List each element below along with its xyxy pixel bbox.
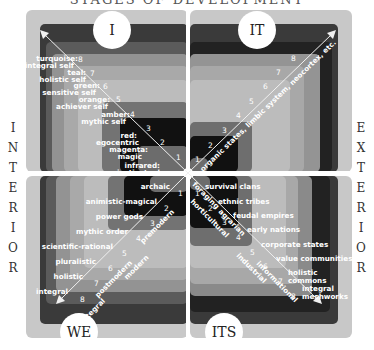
side-letter: E: [6, 178, 20, 198]
diagram-title: STAGES OF DEVELOPMENT: [0, 0, 374, 7]
quadrant-its: [190, 176, 352, 338]
side-letter: T: [354, 158, 368, 178]
side-letter: X: [354, 138, 368, 158]
exterior-label: EXTERIOR: [354, 118, 368, 278]
side-letter: I: [6, 118, 20, 138]
side-letter: N: [6, 138, 20, 158]
badge-it: IT: [238, 11, 276, 49]
side-letter: O: [6, 238, 20, 258]
side-letter: E: [354, 178, 368, 198]
side-letter: E: [354, 118, 368, 138]
badge-we: WE: [60, 313, 98, 350]
side-letter: R: [354, 258, 368, 278]
badge-i: I: [93, 11, 131, 49]
badge-its: ITS: [205, 313, 243, 350]
side-letter: R: [6, 258, 20, 278]
side-letter: R: [354, 198, 368, 218]
side-letter: R: [6, 198, 20, 218]
side-letter: O: [354, 238, 368, 258]
side-letter: I: [354, 218, 368, 238]
side-letter: T: [6, 158, 20, 178]
side-letter: I: [6, 218, 20, 238]
interior-label: INTERIOR: [6, 118, 20, 278]
quadrant-we: [26, 176, 188, 338]
